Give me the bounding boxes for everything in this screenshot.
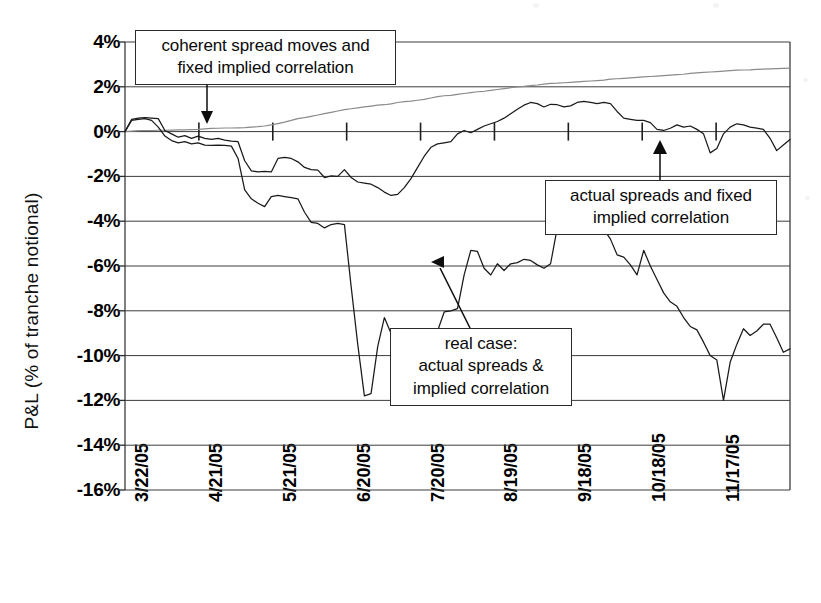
annotation-arrowhead xyxy=(201,111,213,124)
chart-root: P&L (% of tranche notional) 4%2%0%-2%-4%… xyxy=(0,0,821,603)
annotation-line: actual spreads and fixed xyxy=(554,185,768,207)
annotation-line: implied correlation xyxy=(399,378,563,400)
gridlines xyxy=(125,42,790,490)
plot-area xyxy=(0,0,821,603)
annotation-actual-spreads-fixed-correlation: actual spreads and fixed implied correla… xyxy=(545,180,777,235)
annotation-coherent-spread-moves: coherent spread moves and fixed implied … xyxy=(135,30,396,85)
annotation-line: real case: xyxy=(399,333,563,355)
annotation-leader-line xyxy=(440,268,470,328)
annotation-line: coherent spread moves and xyxy=(144,35,387,57)
annotation-line: fixed implied correlation xyxy=(144,57,387,79)
annotation-line: actual spreads & xyxy=(399,355,563,377)
annotation-arrowhead xyxy=(653,140,667,154)
annotation-real-case: real case: actual spreads & implied corr… xyxy=(390,328,572,406)
annotation-line: implied correlation xyxy=(554,207,768,229)
